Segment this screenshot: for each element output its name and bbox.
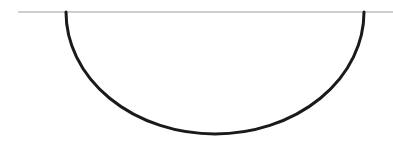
semicircle-diagram bbox=[0, 0, 393, 152]
semicircular-arc bbox=[66, 12, 364, 134]
